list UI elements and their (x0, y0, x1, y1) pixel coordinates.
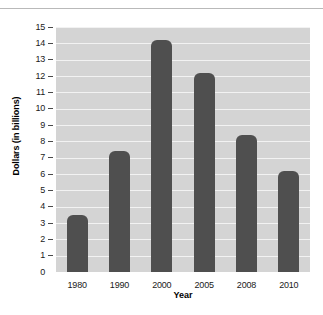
bar-series (56, 27, 310, 272)
y-axis-tick-label: 11 (36, 88, 45, 97)
bar-chart-figure: Dollars (in billions) 151413121110987654… (0, 0, 323, 315)
x-axis-tick-label: 2000 (152, 280, 171, 290)
y-axis-tick: 11 (36, 86, 56, 98)
y-axis-tick-label: 4 (40, 202, 45, 211)
y-axis-tick-mark (48, 255, 53, 256)
y-axis-tick: 3 (40, 217, 56, 229)
y-axis-tick: 8 (40, 135, 56, 147)
y-axis-tick-mark (48, 223, 53, 224)
y-axis-tick-label: 1 (40, 251, 45, 260)
y-axis-tick-mark (48, 76, 53, 77)
y-axis-tick: 14 (35, 37, 56, 49)
plot-area (56, 27, 310, 272)
x-axis-tick-label: 2005 (195, 280, 214, 290)
y-axis-tick-label: 6 (40, 170, 45, 179)
y-axis-tick-mark (48, 206, 53, 207)
y-axis-tick-mark (48, 239, 53, 240)
y-axis-tick: 1 (40, 250, 56, 262)
y-axis-tick-label: 2 (40, 235, 45, 244)
bar-slot (183, 27, 225, 272)
x-axis-title: Year (56, 290, 310, 300)
y-axis-tick: 6 (40, 168, 56, 180)
y-axis-tick-label: 9 (40, 121, 45, 130)
y-axis-tick-label: 13 (35, 55, 45, 64)
y-axis-tick-label: 0 (40, 268, 45, 277)
y-axis-tick-mark (48, 174, 53, 175)
top-divider (0, 8, 323, 9)
bar-slot (141, 27, 183, 272)
y-axis-tick: 4 (40, 201, 56, 213)
y-axis-ticks: 1514131211109876543210 (0, 27, 56, 272)
y-axis-tick-mark (48, 43, 53, 44)
y-axis-tick: 13 (35, 54, 56, 66)
y-axis-tick-mark (48, 92, 53, 93)
y-axis-tick-mark (48, 125, 53, 126)
y-axis-tick-label: 3 (40, 219, 45, 228)
bar[interactable] (151, 40, 172, 272)
x-axis-tick-label: 2010 (279, 280, 298, 290)
y-axis-tick-spacer (48, 272, 53, 273)
x-axis-tick-label: 2008 (237, 280, 256, 290)
y-axis-tick: 7 (40, 152, 56, 164)
bar[interactable] (109, 151, 130, 272)
y-axis-tick: 10 (35, 103, 56, 115)
y-axis-tick: 12 (35, 70, 56, 82)
bar[interactable] (67, 215, 88, 272)
y-axis-tick: 9 (40, 119, 56, 131)
bar-slot (98, 27, 140, 272)
y-axis-tick-label: 5 (40, 186, 45, 195)
y-axis-tick-mark (48, 190, 53, 191)
y-axis-tick: 5 (40, 184, 56, 196)
y-axis-tick-mark (48, 157, 53, 158)
x-axis-tick-labels: 198019902000200520082010 (56, 274, 310, 288)
y-axis-tick-label: 15 (35, 23, 45, 32)
x-axis-tick-label: 1980 (68, 280, 87, 290)
y-axis-tick: 2 (40, 233, 56, 245)
bar[interactable] (278, 171, 299, 272)
y-axis-tick-mark (48, 27, 53, 28)
y-axis-tick-label: 8 (40, 137, 45, 146)
bar-slot (225, 27, 267, 272)
y-axis-tick: 0 (40, 266, 56, 278)
y-axis-tick-label: 7 (40, 153, 45, 162)
y-axis-tick-label: 10 (35, 104, 45, 113)
y-axis-tick: 15 (35, 21, 56, 33)
y-axis-tick-mark (48, 108, 53, 109)
bar[interactable] (236, 135, 257, 272)
x-axis-tick-label: 1990 (110, 280, 129, 290)
bar-slot (268, 27, 310, 272)
y-axis-tick-mark (48, 141, 53, 142)
y-axis-tick-label: 14 (35, 39, 45, 48)
bar-slot (56, 27, 98, 272)
bar[interactable] (194, 73, 215, 272)
y-axis-tick-label: 12 (35, 72, 45, 81)
y-axis-tick-mark (48, 59, 53, 60)
